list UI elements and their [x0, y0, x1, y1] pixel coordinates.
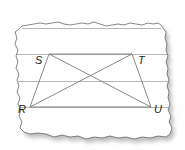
torn-paper	[15, 22, 172, 139]
trapezoid-diagram: S T R U	[0, 0, 185, 150]
vertex-label-u: U	[154, 104, 162, 115]
diagram-canvas	[0, 0, 185, 150]
vertex-label-s: S	[35, 55, 42, 66]
vertex-label-t: T	[138, 55, 145, 66]
vertex-label-r: R	[18, 104, 26, 115]
